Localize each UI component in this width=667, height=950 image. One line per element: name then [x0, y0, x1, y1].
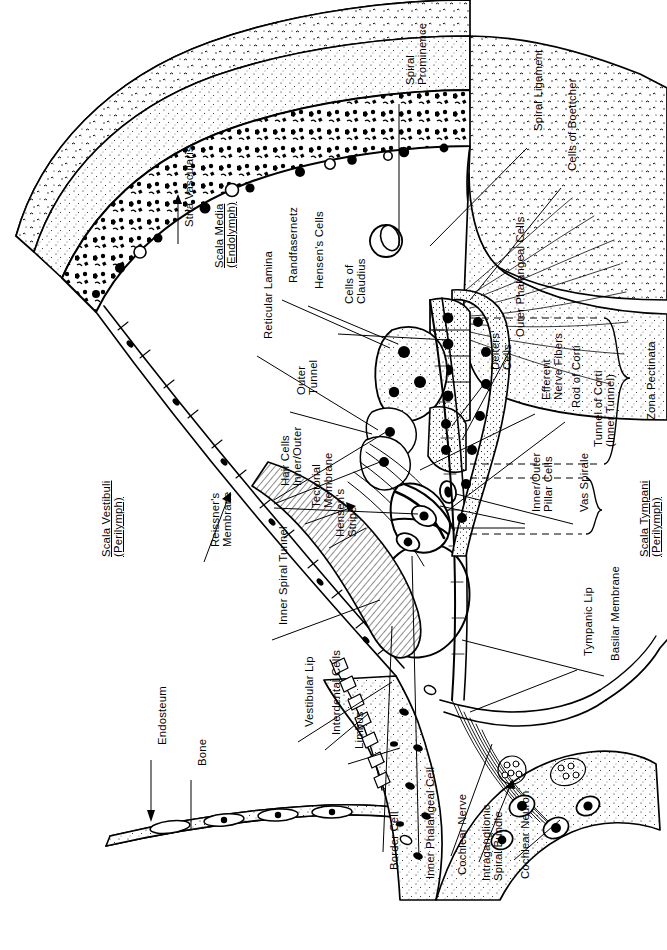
label-hair-cells: Hair CellsInner/Outer — [279, 427, 304, 486]
label-basilar-membrane: Basilar Membrane — [609, 566, 621, 661]
label-cochlear-nerve: Cochlear Nerve — [456, 794, 468, 875]
label-vestibular-lip: Vestibular Lip — [303, 656, 315, 727]
cochlear-duct-figure: SpiralProminenceSpiral LigamentCells of … — [0, 0, 667, 950]
label-inner-phalangeal: Inner Phalangeal Cell — [424, 767, 436, 879]
label-scala-tympani: Scala Tympani(Perilymph) — [638, 481, 663, 558]
label-bone: Bone — [196, 739, 208, 766]
label-tympanic-lip: Tympanic Lip — [582, 587, 594, 656]
label-cochlear-neuron: Cochlear Neuron — [519, 791, 531, 879]
label-inner-spiral-tunnel: Inner Spiral Tunnel — [277, 526, 289, 625]
label-vas-spirale: Vas Spirale — [578, 453, 590, 512]
label-reticular-lamina: Reticular Lamina — [262, 251, 274, 339]
label-interdental-cells: Interdental Cells — [330, 650, 342, 735]
label-tunnel-of-corti: Tunnel of Corti(Inner Tunnel) — [592, 370, 617, 447]
label-endosteum: Endosteum — [156, 686, 168, 745]
label-rod-of-corti: Rod of Corti — [570, 345, 582, 408]
label-deiters-cells: Deiters'Cells — [489, 330, 514, 370]
label-border-cell: Border Cell — [388, 811, 400, 870]
label-stria-vascularis: Stria Vascularis — [183, 146, 195, 227]
label-scala-media: Scala Media(Endolymph) — [213, 202, 238, 268]
label-spiral-prominence: SpiralProminence — [404, 23, 429, 85]
label-limbus: Limbus — [353, 711, 365, 749]
label-cells-of-claudius: Cells ofClaudius — [343, 258, 368, 304]
label-intraganglionic: IntraganglionicSpiral Bundle — [480, 805, 505, 881]
label-outer-tunnel: OuterTunnel — [295, 360, 320, 395]
label-hensens-cells: Hensen's Cells — [313, 211, 325, 289]
label-zona-pectinata: Zona Pectinata — [645, 341, 657, 420]
label-efferent-nerve: EfferentNerve Fibers — [540, 333, 565, 400]
label-reissners-membrane: Reissner'sMembrane — [209, 491, 234, 547]
label-hensens-stripe: Hensen'sStripe — [334, 489, 359, 537]
label-scala-vestibuli: Scala Vestibuli(Perilymph) — [100, 481, 125, 557]
label-spiral-ligament: Spiral Ligament — [532, 50, 544, 132]
label-inner-outer-pillar: Inner/OuterPillar Cells — [530, 453, 555, 512]
label-tectorial-membrane: TectorialMembrane — [310, 452, 335, 508]
label-cells-of-boettcher: Cells of Boettcher — [566, 78, 578, 171]
label-randfasernetz: Randfasernetz — [287, 207, 299, 283]
label-outer-phalangeal: Outer Phalangeal Cells — [514, 216, 526, 337]
